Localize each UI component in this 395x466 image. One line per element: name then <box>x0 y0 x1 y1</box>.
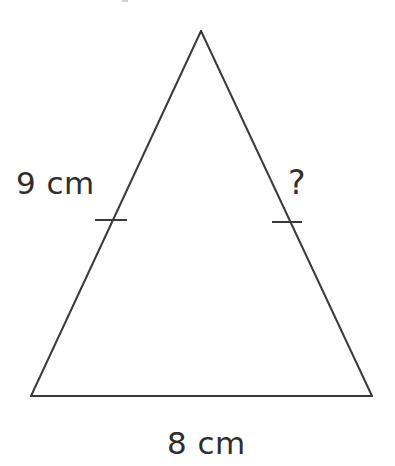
geometry-figure: 9 cm ? 8 cm <box>0 0 395 466</box>
triangle-drawing <box>0 0 395 466</box>
left-side-length-label: 9 cm <box>16 168 95 199</box>
right-side-unknown-label: ? <box>288 166 306 199</box>
triangle-left-side <box>31 31 201 396</box>
scan-artifact-speck <box>122 0 128 2</box>
base-length-label: 8 cm <box>167 428 246 459</box>
triangle-right-side <box>201 31 372 396</box>
